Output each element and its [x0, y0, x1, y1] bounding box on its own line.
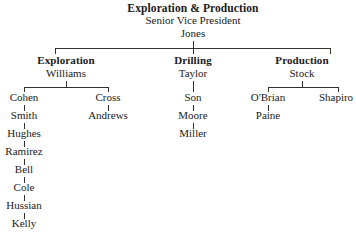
- root-name: Jones: [181, 28, 205, 40]
- person-hughes: Hughes: [7, 128, 41, 140]
- connector-root-down: [193, 41, 194, 48]
- person-cole: Cole: [14, 182, 35, 194]
- division-title-drilling: Drilling: [174, 55, 211, 67]
- person-moore: Moore: [178, 110, 207, 122]
- person-shapiro: Shapiro: [319, 92, 353, 104]
- connector-exploration-bar: [24, 87, 108, 88]
- person-cross: Cross: [95, 92, 120, 104]
- person-andrews: Andrews: [88, 110, 128, 122]
- chart-title: Exploration & Production: [127, 2, 258, 14]
- division-head-exploration: Williams: [46, 68, 86, 80]
- person-paine: Paine: [256, 110, 280, 122]
- division-title-production: Production: [275, 55, 328, 67]
- person-hussian: Hussian: [6, 200, 41, 212]
- person-cohen: Cohen: [10, 92, 39, 104]
- division-title-exploration: Exploration: [37, 55, 94, 67]
- person-miller: Miller: [179, 128, 207, 140]
- division-head-drilling: Taylor: [179, 68, 208, 80]
- person-ramirez: Ramirez: [5, 146, 42, 158]
- connector-production-bar: [268, 87, 338, 88]
- connector-to-production: [330, 48, 331, 54]
- person-smith: Smith: [11, 110, 37, 122]
- division-head-production: Stock: [289, 68, 314, 80]
- person-kelly: Kelly: [12, 218, 36, 230]
- root-role: Senior Vice President: [145, 15, 240, 27]
- person-obrian: O'Brian: [251, 92, 285, 104]
- org-chart: Exploration & Production Senior Vice Pre…: [0, 0, 356, 232]
- person-son: Son: [184, 92, 201, 104]
- person-bell: Bell: [15, 164, 33, 176]
